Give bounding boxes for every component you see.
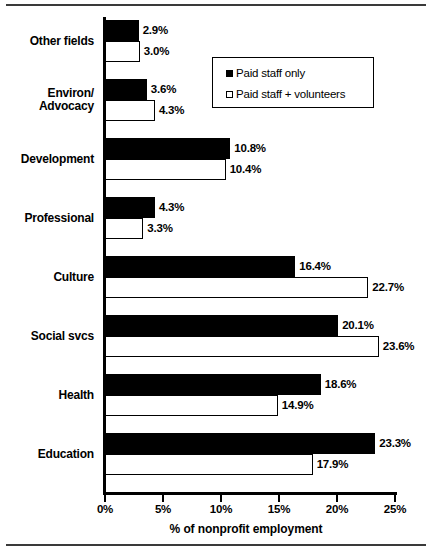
bar-paid-staff-plus-volunteers <box>105 336 379 357</box>
category-label: Education <box>0 448 94 461</box>
x-tick-label: 25% <box>373 503 417 515</box>
bar-paid-staff-only <box>105 197 155 218</box>
x-tick-mark <box>220 495 222 502</box>
legend-label: Paid staff only <box>236 67 305 79</box>
bar-paid-staff-only <box>105 256 295 277</box>
category-label-line: Social svcs <box>0 330 94 343</box>
category-label-line: Education <box>0 448 94 461</box>
category-label-line: Development <box>0 153 94 166</box>
category-label-line: Advocacy <box>0 100 94 113</box>
category-label-line: Health <box>0 389 94 402</box>
bar-value-label: 23.3% <box>379 437 411 449</box>
top-divider-rule <box>6 4 426 6</box>
category-label: Health <box>0 389 94 402</box>
category-group: Other fields2.9%3.0% <box>0 20 432 62</box>
bar-paid-staff-plus-volunteers <box>105 100 155 121</box>
bar-paid-staff-only <box>105 374 321 395</box>
category-group: Professional4.3%3.3% <box>0 197 432 239</box>
bar-paid-staff-only <box>105 79 147 100</box>
x-tick-label: 15% <box>257 503 301 515</box>
category-label: Culture <box>0 271 94 284</box>
category-label: Other fields <box>0 35 94 48</box>
x-tick-label: 10% <box>199 503 243 515</box>
bar-value-label: 4.3% <box>159 104 184 116</box>
bar-paid-staff-plus-volunteers <box>105 277 368 298</box>
bar-value-label: 3.0% <box>144 45 169 57</box>
bar-chart-figure: 0%5%10%15%20%25% Other fields2.9%3.0%Env… <box>0 0 432 557</box>
bar-value-label: 16.4% <box>299 260 331 272</box>
category-group: Development10.8%10.4% <box>0 138 432 180</box>
bar-paid-staff-only <box>105 20 139 41</box>
x-tick-mark <box>394 495 396 502</box>
category-label-line: Culture <box>0 271 94 284</box>
bar-paid-staff-only <box>105 315 338 336</box>
bar-value-label: 3.6% <box>151 83 176 95</box>
category-group: Culture16.4%22.7% <box>0 256 432 298</box>
category-label: Development <box>0 153 94 166</box>
legend-label: Paid staff + volunteers <box>236 88 345 100</box>
bar-paid-staff-only <box>105 433 375 454</box>
bottom-divider-rule <box>6 544 426 546</box>
bar-paid-staff-only <box>105 138 230 159</box>
x-tick-label: 20% <box>315 503 359 515</box>
bar-value-label: 2.9% <box>143 24 168 36</box>
bar-paid-staff-plus-volunteers <box>105 454 313 475</box>
x-tick-mark <box>104 495 106 502</box>
x-axis-title: % of nonprofit employment <box>0 522 432 536</box>
bar-paid-staff-plus-volunteers <box>105 218 143 239</box>
chart-legend: Paid staff only Paid staff + volunteers <box>212 57 374 108</box>
bar-value-label: 10.4% <box>230 163 262 175</box>
bar-paid-staff-plus-volunteers <box>105 395 278 416</box>
x-tick-label: 5% <box>141 503 185 515</box>
category-group: Health18.6%14.9% <box>0 374 432 416</box>
category-label: Social svcs <box>0 330 94 343</box>
category-label-line: Professional <box>0 212 94 225</box>
value-axis-line <box>103 492 397 495</box>
category-group: Education23.3%17.9% <box>0 433 432 475</box>
category-label: Professional <box>0 212 94 225</box>
bar-value-label: 4.3% <box>159 201 184 213</box>
bar-value-label: 14.9% <box>282 399 314 411</box>
x-tick-mark <box>162 495 164 502</box>
bar-value-label: 23.6% <box>383 340 415 352</box>
bar-value-label: 18.6% <box>325 378 357 390</box>
x-axis-title-text: % of nonprofit employment <box>170 522 323 536</box>
bar-value-label: 17.9% <box>317 458 349 470</box>
category-label-line: Other fields <box>0 35 94 48</box>
category-group: Social svcs20.1%23.6% <box>0 315 432 357</box>
x-tick-mark <box>278 495 280 502</box>
category-label: Environ/Advocacy <box>0 87 94 113</box>
bar-value-label: 20.1% <box>342 319 374 331</box>
bar-value-label: 10.8% <box>234 142 266 154</box>
legend-swatch-solid-icon <box>226 70 233 77</box>
bar-value-label: 22.7% <box>372 281 404 293</box>
x-tick-mark <box>336 495 338 502</box>
bar-paid-staff-plus-volunteers <box>105 41 140 62</box>
x-tick-label: 0% <box>83 503 127 515</box>
legend-item-paid-staff-only: Paid staff only <box>226 66 305 80</box>
legend-item-paid-staff-plus-volunteers: Paid staff + volunteers <box>226 87 345 101</box>
legend-swatch-hollow-icon <box>226 91 233 98</box>
bar-value-label: 3.3% <box>147 222 172 234</box>
bar-paid-staff-plus-volunteers <box>105 159 226 180</box>
